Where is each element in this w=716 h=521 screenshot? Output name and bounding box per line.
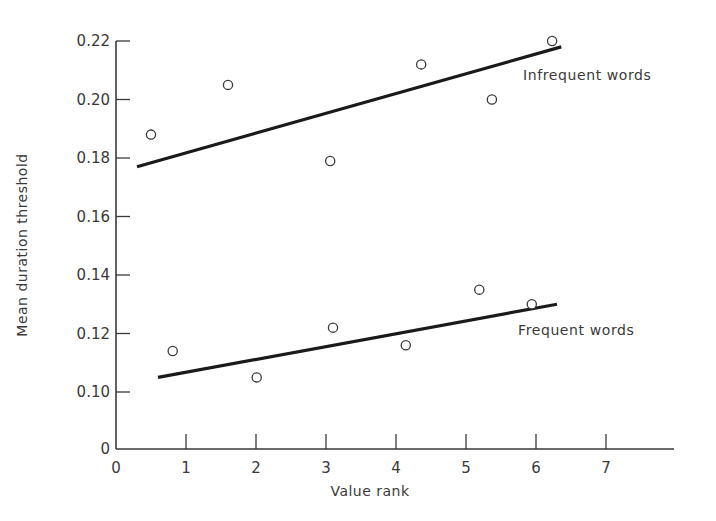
data-point-series-0 (548, 36, 557, 45)
x-tick-label: 1 (181, 459, 191, 477)
x-axis-title: Value rank (330, 483, 410, 499)
fit-lines (137, 47, 561, 378)
x-tick-label: 5 (461, 459, 471, 477)
x-tick-label: 2 (251, 459, 261, 477)
data-point-series-1 (527, 300, 536, 309)
x-tick-label: 6 (531, 459, 541, 477)
fit-line-series-0 (137, 47, 561, 167)
data-point-series-1 (328, 323, 337, 332)
series-label-infrequent-words: Infrequent words (523, 67, 651, 83)
fit-line-series-1 (158, 304, 557, 377)
series-label-frequent-words: Frequent words (518, 322, 634, 338)
y-tick-label: 0.22 (77, 32, 110, 50)
y-tick-label: 0.10 (77, 383, 110, 401)
ticks: 0.100.120.140.160.180.200.22001234567 (77, 32, 611, 477)
data-point-series-0 (146, 130, 155, 139)
y-tick-label: 0.18 (77, 149, 110, 167)
y-tick-label: 0.20 (77, 91, 110, 109)
data-point-series-1 (401, 341, 410, 350)
data-point-series-1 (168, 346, 177, 355)
chart-canvas: 0.100.120.140.160.180.200.22001234567 Va… (0, 0, 716, 521)
data-points (146, 36, 556, 382)
data-point-series-0 (223, 80, 232, 89)
y-tick-label: 0.16 (77, 208, 110, 226)
data-point-series-1 (475, 285, 484, 294)
data-point-series-0 (417, 60, 426, 69)
data-point-series-0 (487, 95, 496, 104)
x-tick-label: 7 (601, 459, 611, 477)
axes (116, 41, 674, 449)
y-tick-label: 0.14 (77, 266, 110, 284)
y-tick-label: 0.12 (77, 325, 110, 343)
y-axis-title: Mean duration threshold (14, 153, 30, 336)
data-point-series-1 (252, 373, 261, 382)
data-point-series-0 (326, 156, 335, 165)
x-tick-label: 4 (391, 459, 401, 477)
x-tick-label: 0 (111, 459, 121, 477)
x-tick-label: 3 (321, 459, 331, 477)
y-tick-label-zero: 0 (100, 440, 110, 458)
